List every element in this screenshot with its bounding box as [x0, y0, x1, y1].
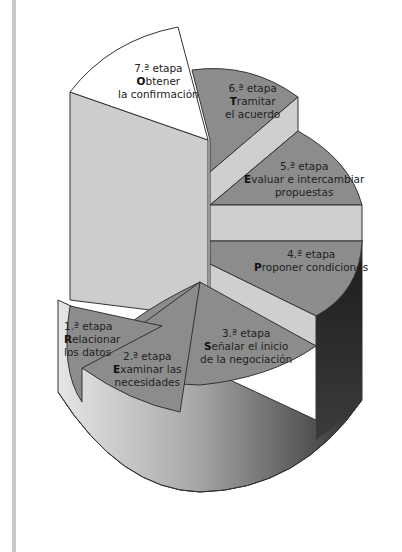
band-5-4: [210, 205, 362, 241]
stage-6-initial: T: [230, 95, 237, 107]
stage-7-label: 7.ª etapa Obtener la confirmación: [118, 62, 199, 101]
stage-6-title-line2: el acuerdo: [225, 108, 280, 121]
stage-3-title-line2: de la negociación: [200, 353, 292, 366]
negotiation-stages-pie: [0, 0, 402, 552]
stage-5-title: valuar e intercambiar: [251, 173, 364, 185]
stage-5-ordinal: 5.ª etapa: [244, 160, 364, 173]
stage-1-title-line2: los datos: [64, 346, 120, 359]
stage-6-label: 6.ª etapa Tramitar el acuerdo: [225, 82, 280, 121]
stage-3-ordinal: 3.ª etapa: [200, 327, 292, 340]
stage-4-initial: P: [254, 261, 262, 273]
stage-3-title: eñalar el inicio: [211, 340, 288, 352]
stage-7-title-line2: la confirmación: [118, 88, 199, 101]
stage-6-title: ramitar: [237, 95, 276, 107]
stage-6-ordinal: 6.ª etapa: [225, 82, 280, 95]
stage-4-title: roponer condiciones: [262, 261, 369, 273]
stage-4-ordinal: 4.ª etapa: [254, 248, 368, 261]
stage-2-ordinal: 2.ª etapa: [113, 350, 182, 363]
stage-2-label: 2.ª etapa Examinar las necesidades: [113, 350, 182, 389]
stage-4-label: 4.ª etapa Proponer condiciones: [254, 248, 368, 274]
stage-1-initial: R: [64, 333, 72, 345]
stage-2-title-line2: necesidades: [113, 376, 182, 389]
stage-2-title: xaminar las: [120, 363, 181, 375]
stage-5-title-line2: propuestas: [244, 186, 364, 199]
stage-1-ordinal: 1.ª etapa: [64, 320, 120, 333]
stage-5-label: 5.ª etapa Evaluar e intercambiar propues…: [244, 160, 364, 199]
stage-7-ordinal: 7.ª etapa: [118, 62, 199, 75]
stage-7-title: btener: [145, 75, 180, 87]
stage-1-title: elacionar: [72, 333, 120, 345]
stage-1-label: 1.ª etapa Relacionar los datos: [64, 320, 120, 359]
stage-3-label: 3.ª etapa Señalar el inicio de la negoci…: [200, 327, 292, 366]
